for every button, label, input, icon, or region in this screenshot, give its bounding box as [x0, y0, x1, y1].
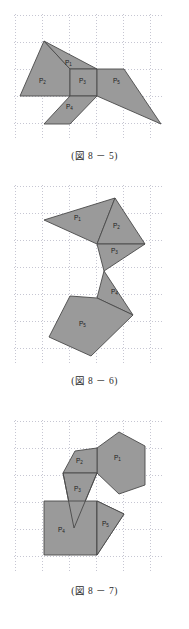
shape-label-p4: P4 [58, 527, 65, 534]
shape-label-p5: P5 [113, 78, 120, 85]
shape-label-p4: P4 [66, 104, 73, 111]
shape-label-p3: P3 [74, 486, 81, 493]
shape-label-p1: P1 [65, 60, 72, 67]
figure-sheet: P1 P2 P3 P4 P5 (図 8 － 5) [0, 0, 189, 629]
figure-8-5: P1 P2 P3 P4 P5 (図 8 － 5) [0, 0, 189, 175]
polygon-p2 [20, 41, 70, 96]
shape-label-p2: P2 [113, 223, 120, 230]
shape-label-p3: P3 [79, 78, 86, 85]
shape-label-p2: P2 [39, 78, 46, 85]
shape-label-p3: P3 [111, 248, 118, 255]
polygon-p1 [97, 432, 145, 494]
figure-caption-1: (図 8 － 5) [0, 148, 189, 162]
shape-label-p4: P4 [111, 289, 118, 296]
shape-label-p1: P1 [74, 215, 81, 222]
shape-label-p5: P5 [102, 521, 109, 528]
shape-label-p1: P1 [114, 455, 121, 462]
figure-caption-2: (図 8 － 6) [0, 373, 189, 387]
polygon-p5 [97, 501, 124, 555]
figure-8-6-shapes [0, 175, 189, 400]
polygon-p3 [97, 244, 145, 271]
polygon-p5 [97, 69, 161, 124]
figure-8-7: P1 P2 P3 P4 P5 (図 8 － 7) [0, 400, 189, 629]
figure-caption-3: (図 8 － 7) [0, 583, 189, 597]
figure-8-6: P1 P2 P3 P4 P5 (図 8 － 6) [0, 175, 189, 400]
shape-label-p2: P2 [76, 458, 83, 465]
shape-label-p5: P5 [79, 321, 86, 328]
